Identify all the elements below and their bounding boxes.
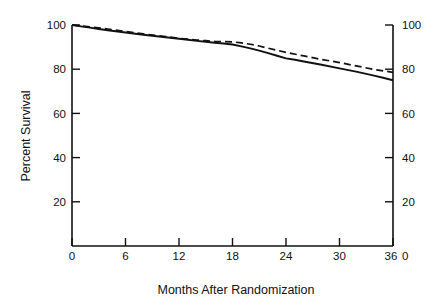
left-axis-tick-labels: 100 80 60 40 20	[47, 19, 66, 208]
left-tick-label-80: 80	[53, 63, 66, 75]
chart-canvas: 100 80 60 40 20 100 80 60 40 20 0 0 6 12…	[0, 0, 441, 308]
x-axis-title: Months After Randomization	[157, 283, 314, 297]
data-curves	[72, 25, 393, 80]
left-tick-label-40: 40	[53, 152, 66, 164]
x-axis-ticks	[72, 238, 393, 246]
left-tick-label-20: 20	[53, 196, 66, 208]
x-tick-label-6: 6	[122, 250, 128, 262]
right-axis-tick-labels: 100 80 60 40 20 0	[402, 19, 421, 262]
x-tick-label-0: 0	[69, 250, 75, 262]
right-tick-label-60: 60	[402, 108, 415, 120]
axis-lines	[72, 25, 393, 246]
right-tick-label-0: 0	[402, 250, 408, 262]
right-tick-label-40: 40	[402, 152, 415, 164]
right-tick-label-20: 20	[402, 196, 415, 208]
left-tick-label-100: 100	[47, 19, 66, 31]
x-tick-label-18: 18	[226, 250, 239, 262]
right-axis-ticks	[385, 25, 393, 202]
chart-svg: 100 80 60 40 20 100 80 60 40 20 0 0 6 12…	[0, 0, 441, 308]
right-tick-label-100: 100	[402, 19, 421, 31]
y-axis-title: Percent Survival	[19, 90, 33, 181]
x-tick-label-36: 36	[385, 250, 398, 262]
x-tick-label-12: 12	[173, 250, 186, 262]
solid-curve-path	[72, 25, 393, 80]
x-axis-tick-labels: 0 6 12 18 24 30 36	[69, 250, 398, 262]
left-axis-ticks	[72, 25, 80, 202]
left-tick-label-60: 60	[53, 108, 66, 120]
right-tick-label-80: 80	[402, 63, 415, 75]
x-tick-label-30: 30	[333, 250, 346, 262]
survival-chart-figure: 100 80 60 40 20 100 80 60 40 20 0 0 6 12…	[0, 0, 441, 308]
x-tick-label-24: 24	[280, 250, 293, 262]
